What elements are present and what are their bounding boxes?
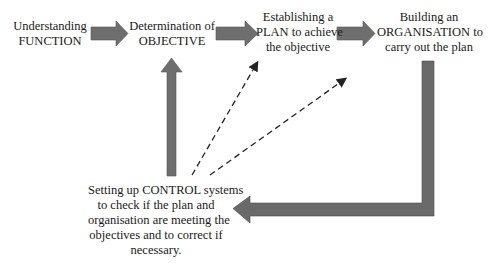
node-line: to check if the plan and <box>88 198 224 213</box>
node-line: Understanding <box>12 19 88 34</box>
node-line: objectives and to correct if <box>88 228 224 243</box>
node-line: Setting up CONTROL systems <box>88 183 224 198</box>
node-line: organisation are meeting the <box>88 213 224 228</box>
arrow-organisation-to-control <box>233 61 434 223</box>
node-line: OBJECTIVE <box>128 34 216 49</box>
node-determination-objective: Determination of OBJECTIVE <box>128 19 216 49</box>
node-line: necessary. <box>88 243 224 258</box>
node-building-organisation: Building an ORGANISATION to carry out th… <box>377 10 481 55</box>
arrow-objective-to-plan <box>216 21 258 46</box>
node-setting-up-control: Setting up CONTROL systems to check if t… <box>88 183 224 258</box>
node-line: FUNCTION <box>12 34 88 49</box>
node-establishing-plan: Establishing a PLAN to achieve the objec… <box>256 10 340 55</box>
node-line: carry out the plan <box>377 40 481 55</box>
arrow-function-to-objective <box>91 21 128 46</box>
dashed-arrow-control-to-plan <box>192 63 257 175</box>
node-line: ORGANISATION to <box>377 25 481 40</box>
node-understanding-function: Understanding FUNCTION <box>12 19 88 49</box>
node-line: the objective <box>256 40 340 55</box>
node-line: Building an <box>377 10 481 25</box>
node-line: PLAN to achieve <box>256 25 340 40</box>
node-line: Determination of <box>128 19 216 34</box>
arrow-control-to-objective <box>161 58 182 176</box>
dashed-arrow-control-to-organisation <box>210 79 345 175</box>
node-line: Establishing a <box>256 10 340 25</box>
